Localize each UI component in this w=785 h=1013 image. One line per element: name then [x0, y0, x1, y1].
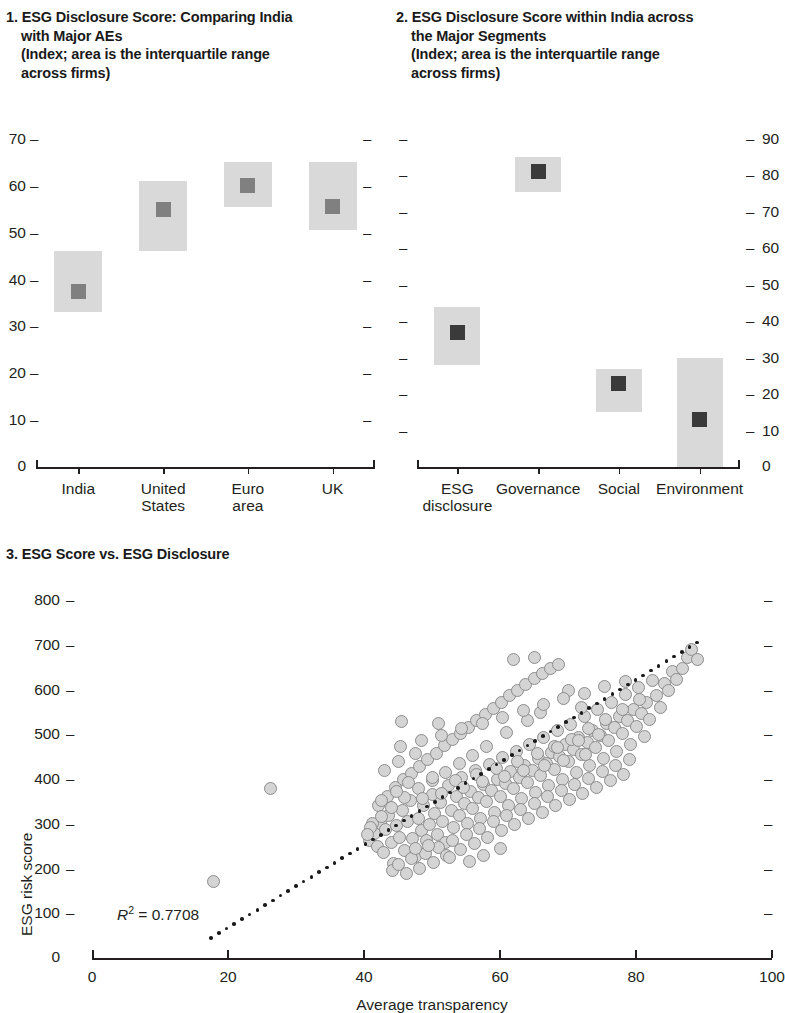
scatter-point — [453, 757, 466, 770]
scatter-point — [392, 755, 405, 768]
scatter-point — [415, 734, 428, 747]
scatter-point — [498, 770, 511, 783]
panel-3-ytick-dash-right: – — [764, 592, 772, 607]
trendline-dot — [695, 641, 699, 645]
scatter-point — [662, 684, 675, 697]
panel-3-xtick-label: 100 — [737, 968, 785, 985]
trendline-dot — [333, 861, 337, 865]
panel-3-ytick-dash-right: – — [764, 816, 772, 831]
scatter-point — [395, 715, 408, 728]
scatter-point — [598, 680, 611, 693]
scatter-point — [576, 787, 589, 800]
trendline-dot — [286, 889, 290, 893]
trendline-dot — [279, 894, 283, 898]
trendline-dot — [371, 838, 375, 842]
trendline-dot — [680, 650, 684, 654]
trendline-dot — [572, 716, 576, 720]
scatter-point — [463, 855, 476, 868]
scatter-point — [443, 851, 456, 864]
scatter-point — [500, 726, 513, 739]
trendline-dot — [502, 758, 506, 762]
trendline-dot — [603, 697, 607, 701]
scatter-point — [572, 734, 585, 747]
r-squared-annotation: R2 = 0.7708 — [117, 904, 199, 924]
panel-3-plot: 100––200––300––400––500––600––700––800––… — [0, 0, 785, 1013]
panel-3-ytick-label: 600 — [0, 682, 60, 698]
trendline-dot — [641, 674, 645, 678]
scatter-point — [466, 749, 479, 762]
scatter-point — [646, 674, 659, 687]
panel-3-xtick — [363, 950, 365, 958]
panel-3-ytick-label: 700 — [0, 637, 60, 653]
trendline-dot — [487, 767, 491, 771]
trendline-dot — [387, 828, 391, 832]
trendline-dot — [649, 669, 653, 673]
scatter-point — [536, 806, 549, 819]
trendline-dot — [209, 936, 213, 940]
scatter-point — [476, 717, 489, 730]
panel-3-xtick-label: 20 — [193, 968, 263, 985]
trendline-dot — [263, 903, 267, 907]
trendline-dot — [217, 931, 221, 935]
panel-3-x-axis-line — [92, 958, 772, 960]
panel-3-ytick-dash-left: – — [66, 905, 74, 920]
scatter-point — [409, 747, 422, 760]
scatter-point — [468, 837, 481, 850]
trendline-dot — [510, 753, 514, 757]
trendline-dot — [456, 786, 460, 790]
panel-3-ytick-dash-left: – — [66, 637, 74, 652]
scatter-point — [623, 753, 636, 766]
trendline-dot — [556, 725, 560, 729]
trendline-dot — [317, 870, 321, 874]
panel-3-xtick-label: 0 — [57, 968, 127, 985]
trendline-dot — [541, 734, 545, 738]
scatter-point — [549, 799, 562, 812]
panel-3-y-axis-title: ESG risk score — [18, 833, 36, 936]
r-squared-symbol: R — [117, 906, 128, 923]
trendline-dot — [611, 692, 615, 696]
panel-3-ytick-label: 300 — [0, 816, 60, 832]
scatter-point — [578, 687, 591, 700]
scatter-point — [604, 774, 617, 787]
scatter-point — [624, 738, 637, 751]
scatter-point — [557, 692, 570, 705]
scatter-point — [599, 713, 612, 726]
scatter-point — [496, 711, 509, 724]
trendline-dot — [657, 664, 661, 668]
panel-3-xtick — [771, 950, 773, 958]
scatter-point — [400, 867, 413, 880]
trendline-dot — [618, 688, 622, 692]
panel-3-ytick-dash-left: – — [66, 592, 74, 607]
scatter-point — [610, 745, 623, 758]
trendline-dot — [587, 706, 591, 710]
trendline-dot — [356, 847, 360, 851]
trendline-dot — [240, 917, 244, 921]
scatter-point — [494, 842, 507, 855]
panel-3-xtick-label: 60 — [465, 968, 535, 985]
scatter-point — [426, 771, 439, 784]
scatter-point — [447, 821, 460, 834]
scatter-point — [597, 752, 610, 765]
trendline-dot — [340, 856, 344, 860]
scatter-point — [528, 651, 541, 664]
panel-3-ytick-dash-right: – — [764, 682, 772, 697]
trendline-dot — [248, 913, 252, 917]
scatter-point — [207, 875, 220, 888]
trendline-dot — [232, 922, 236, 926]
scatter-point — [592, 728, 605, 741]
scatter-point — [517, 764, 530, 777]
trendline-dot — [225, 927, 229, 931]
scatter-point — [537, 698, 550, 711]
trendline-dot — [564, 720, 568, 724]
scatter-point — [522, 812, 535, 825]
trendline-dot — [294, 884, 298, 888]
trendline-dot — [634, 678, 638, 682]
trendline-dot — [364, 842, 368, 846]
scatter-point — [480, 740, 493, 753]
trendline-dot — [672, 655, 676, 659]
scatter-point — [638, 730, 651, 743]
scatter-point — [617, 768, 630, 781]
scatter-point — [507, 653, 520, 666]
scatter-point — [393, 831, 406, 844]
scatter-point — [563, 793, 576, 806]
